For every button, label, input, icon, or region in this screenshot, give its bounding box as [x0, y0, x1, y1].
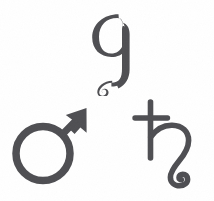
- mars-symbol-icon: Mars: [8, 96, 92, 188]
- jupiter-symbol-icon: Jupiter: [84, 12, 142, 96]
- symbol-plate: Jupiter Mars Saturn: [0, 0, 214, 201]
- saturn-symbol-icon: Saturn: [131, 96, 211, 192]
